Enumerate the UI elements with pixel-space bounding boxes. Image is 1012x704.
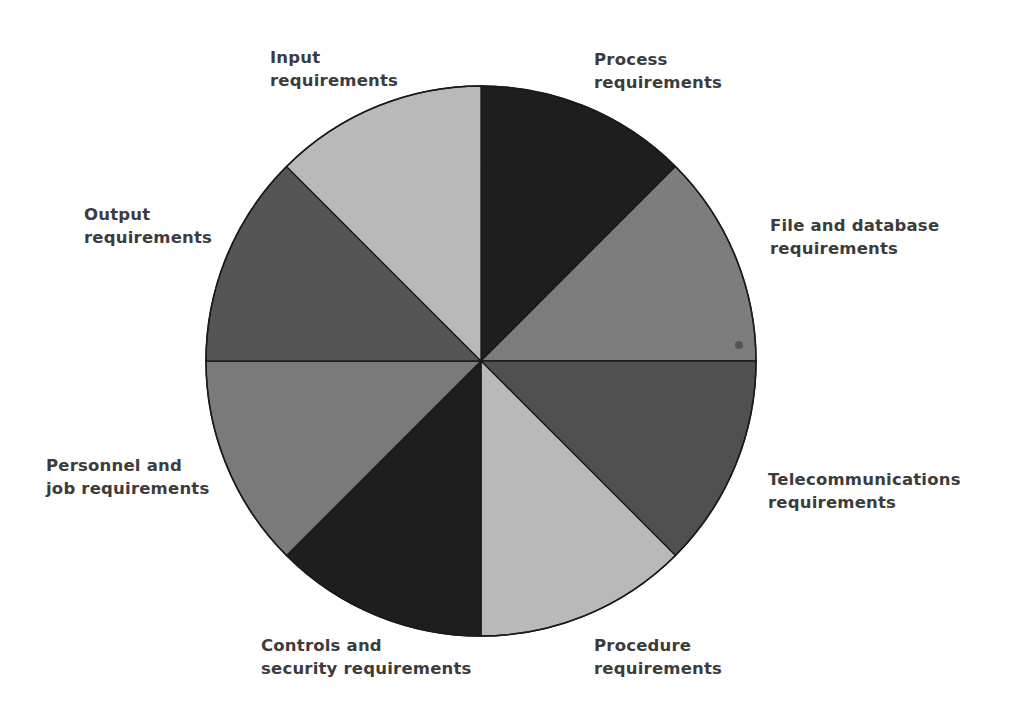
label-line: requirements (768, 491, 961, 514)
scan-artifact-dot (735, 341, 743, 349)
label-line: Controls and (261, 634, 472, 657)
label-line: requirements (270, 69, 398, 92)
label-line: requirements (594, 71, 722, 94)
label-line: Personnel and (46, 454, 209, 477)
label-line: job requirements (46, 477, 209, 500)
label-line: File and database (770, 214, 939, 237)
label-procedure-requirements: Procedure requirements (594, 634, 722, 680)
label-line: Input (270, 46, 398, 69)
label-process-requirements: Process requirements (594, 48, 722, 94)
label-line: security requirements (261, 657, 472, 680)
label-line: requirements (770, 237, 939, 260)
label-line: Telecommunications (768, 468, 961, 491)
requirements-pie-diagram (0, 0, 1012, 704)
label-input-requirements: Input requirements (270, 46, 398, 92)
label-line: Output (84, 203, 212, 226)
label-line: Procedure (594, 634, 722, 657)
label-file-database-requirements: File and database requirements (770, 214, 939, 260)
label-telecommunications-requirements: Telecommunications requirements (768, 468, 961, 514)
label-line: Process (594, 48, 722, 71)
label-controls-security-requirements: Controls and security requirements (261, 634, 472, 680)
pie-segments (206, 86, 756, 636)
label-personnel-job-requirements: Personnel and job requirements (46, 454, 209, 500)
label-output-requirements: Output requirements (84, 203, 212, 249)
label-line: requirements (594, 657, 722, 680)
label-line: requirements (84, 226, 212, 249)
